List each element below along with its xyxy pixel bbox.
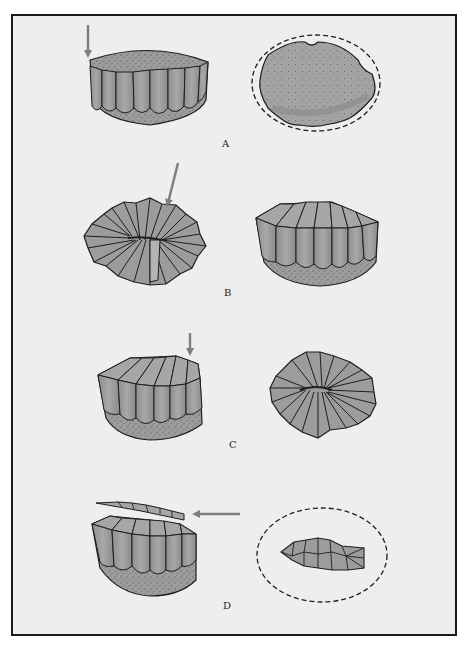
panel-b-rosette xyxy=(84,198,206,285)
panel-label-c: C xyxy=(229,439,237,450)
panel-b-arrow xyxy=(168,163,178,203)
panel-label-d: D xyxy=(223,600,232,611)
figure-illustration: A xyxy=(0,0,471,650)
panel-c-block xyxy=(98,356,202,440)
panel-c-rosette xyxy=(270,352,376,438)
panel-d-block xyxy=(92,516,196,596)
panel-d-top-view xyxy=(257,508,387,602)
panel-label-a: A xyxy=(221,138,230,149)
panel-a-top-view xyxy=(252,35,380,131)
panel-a-block xyxy=(90,50,208,125)
panel-b-block xyxy=(256,202,378,286)
panel-label-b: B xyxy=(224,287,232,298)
